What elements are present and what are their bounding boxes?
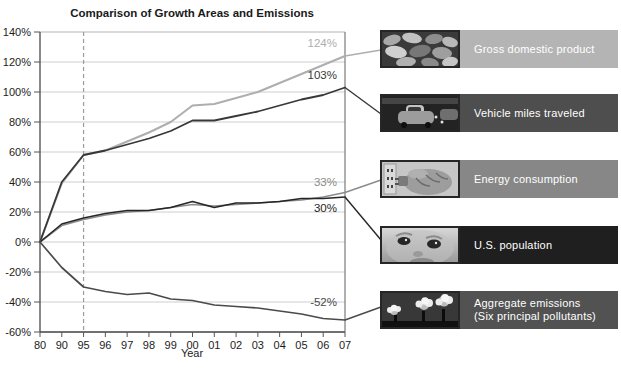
x-tick-label: 01 <box>208 339 220 351</box>
legend-item-vmt: Vehicle miles traveled <box>380 94 618 132</box>
legend-label-population: U.S. population <box>474 239 618 252</box>
series-end-labels: 124%103%33%30%-52% <box>308 37 337 308</box>
connector-vmt <box>345 88 381 115</box>
end-label-population: 30% <box>314 202 337 214</box>
baby-photo <box>380 226 460 264</box>
x-tick-label: 90 <box>56 339 68 351</box>
x-tick-label: 06 <box>317 339 329 351</box>
x-axis-title: Year <box>181 347 204 359</box>
legend-label-emissions-2: (Six principal pollutants) <box>474 310 618 323</box>
y-tick-label: 40% <box>9 176 31 188</box>
x-tick-label: 95 <box>77 339 89 351</box>
figure-page: { "chart_data": { "type": "line", "title… <box>0 0 621 370</box>
coins-photo <box>380 30 460 68</box>
traffic-photo <box>380 94 460 132</box>
legend-connectors <box>345 50 381 320</box>
end-label-emissions: -52% <box>310 296 337 308</box>
y-tick-label: 140% <box>3 26 31 38</box>
legend-item-energy: Energy consumption <box>380 160 618 198</box>
x-tick-label: 97 <box>121 339 133 351</box>
y-tick-label: 100% <box>3 86 31 98</box>
y-tick-label: -40% <box>5 296 31 308</box>
x-tick-label: 07 <box>339 339 351 351</box>
y-tick-label: 80% <box>9 116 31 128</box>
end-label-vmt: 103% <box>308 69 337 81</box>
connector-emissions <box>345 307 381 320</box>
series-lines <box>40 56 345 320</box>
legend-item-gdp: Gross domestic product <box>380 30 618 68</box>
y-tick-label: 0% <box>15 236 31 248</box>
y-axis: 140%120%100%80%60%40%20%0%-20%-40%-60% <box>3 26 40 338</box>
y-tick-label: 60% <box>9 146 31 158</box>
x-tick-label: 05 <box>295 339 307 351</box>
x-tick-label: 04 <box>274 339 286 351</box>
x-tick-label: 98 <box>143 339 155 351</box>
legend-label-gdp: Gross domestic product <box>474 43 618 56</box>
line-emissions <box>40 242 345 320</box>
legend-item-emissions: Aggregate emissions (Six principal pollu… <box>380 291 618 329</box>
plug-photo <box>380 160 460 198</box>
end-label-gdp: 124% <box>308 37 337 49</box>
y-tick-label: -20% <box>5 266 31 278</box>
x-tick-label: 02 <box>230 339 242 351</box>
legend-label-vmt: Vehicle miles traveled <box>474 107 618 120</box>
legend: Gross domestic product Vehicle miles tra… <box>380 0 618 370</box>
legend-label-emissions: Aggregate emissions <box>474 297 618 310</box>
legend-item-population: U.S. population <box>380 226 618 264</box>
y-tick-label: 120% <box>3 56 31 68</box>
smokestacks-photo <box>380 291 460 329</box>
x-tick-label: 96 <box>99 339 111 351</box>
connector-gdp <box>345 50 381 56</box>
end-label-energy: 33% <box>314 176 337 188</box>
y-tick-label: -60% <box>5 326 31 338</box>
legend-label-energy: Energy consumption <box>474 173 618 186</box>
connector-energy <box>345 180 381 193</box>
x-tick-label: 99 <box>165 339 177 351</box>
y-tick-label: 20% <box>9 206 31 218</box>
x-tick-label: 03 <box>252 339 264 351</box>
x-tick-label: 80 <box>34 339 46 351</box>
chart-title: Comparison of Growth Areas and Emissions <box>70 7 314 19</box>
line-gdp <box>40 56 345 242</box>
connector-population <box>345 197 381 240</box>
